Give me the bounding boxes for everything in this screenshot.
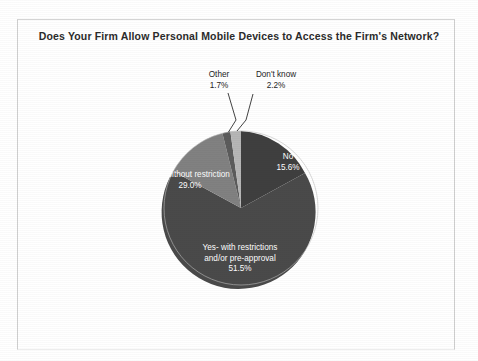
pie-label-other: Other 1.7% <box>193 70 245 91</box>
pie-label-yes-with-restrictions-name-2: and/or pre-approval <box>175 254 305 265</box>
pie-label-yes-without-restriction-value: 29.0% <box>135 181 245 192</box>
pie-label-yes-with-restrictions-name-1: Yes- with restrictions <box>175 243 305 254</box>
pie-label-other-value: 1.7% <box>193 81 245 92</box>
pie-label-dont-know: Don't know 2.2% <box>243 70 309 91</box>
pie-label-yes-without-restriction-name: Yes-without restriction <box>135 170 245 181</box>
chart-page: Does Your Firm Allow Personal Mobile Dev… <box>0 0 478 361</box>
pie-label-dont-know-value: 2.2% <box>243 81 309 92</box>
pie-label-other-name: Other <box>193 70 245 81</box>
pie-label-no-value: 15.6% <box>258 163 318 174</box>
pie-label-yes-without-restriction: Yes-without restriction 29.0% <box>135 170 245 191</box>
pie-label-dont-know-name: Don't know <box>243 70 309 81</box>
pie-label-no-name: No <box>258 152 318 163</box>
pie-chart: No 15.6% Yes-without restriction 29.0% Y… <box>0 0 478 361</box>
leader-line-dont-know <box>237 94 253 131</box>
leader-line-other <box>228 93 236 132</box>
pie-label-no: No 15.6% <box>258 152 318 173</box>
pie-label-yes-with-restrictions: Yes- with restrictions and/or pre-approv… <box>175 243 305 275</box>
pie-label-yes-with-restrictions-value: 51.5% <box>175 264 305 275</box>
